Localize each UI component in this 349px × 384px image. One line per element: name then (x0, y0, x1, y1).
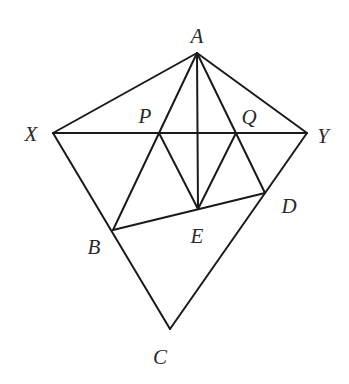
segment-ab (113, 53, 197, 230)
point-label-d: D (280, 194, 296, 218)
segment-pe (159, 133, 198, 209)
point-label-c: C (153, 345, 168, 369)
point-label-b: B (88, 235, 101, 259)
segment-ae (197, 53, 198, 209)
point-label-p: P (138, 104, 152, 128)
point-label-y: Y (317, 124, 331, 148)
geometry-diagram: AXYPQEDBC (0, 0, 349, 384)
segment-ax (53, 53, 197, 133)
point-label-a: A (189, 24, 204, 48)
segment-xc (53, 133, 170, 329)
point-label-q: Q (241, 105, 256, 129)
segment-qe (198, 133, 236, 209)
point-label-x: X (24, 122, 39, 146)
point-label-e: E (190, 224, 204, 248)
segments-group (53, 53, 307, 329)
